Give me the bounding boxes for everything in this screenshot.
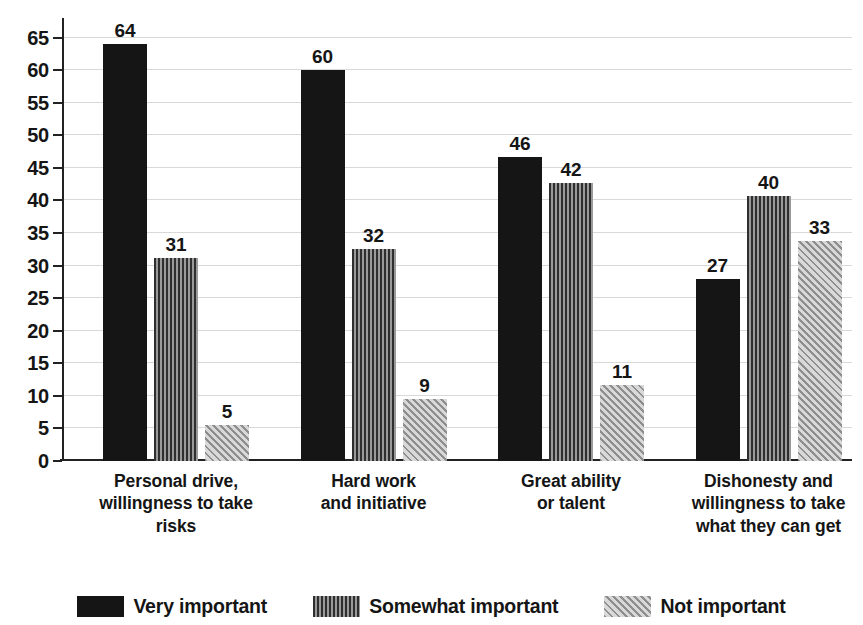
legend-item: Somewhat important: [313, 595, 558, 618]
category-label-line: willingness to take risks: [77, 492, 275, 537]
y-axis-tick-label: 0: [38, 450, 49, 473]
bar-value-label: 40: [758, 173, 779, 192]
bar-value-label: 64: [114, 21, 135, 40]
category-label-line: Personal drive,: [77, 470, 275, 492]
y-axis-tick-label: 10: [27, 384, 49, 407]
bar: 27: [696, 279, 740, 461]
category-label-line: Great ability: [472, 470, 670, 492]
bar-chart-figure: 05101520253035404550556065 6431560329464…: [0, 0, 863, 625]
category-label-line: Dishonesty and: [670, 470, 863, 492]
y-axis-tick: [53, 265, 62, 267]
legend-swatch-icon: [313, 596, 360, 617]
category-label-line: Hard work: [275, 470, 473, 492]
legend-item: Not important: [604, 595, 785, 618]
y-axis-tick-label: 40: [27, 189, 49, 212]
bar: 33: [798, 241, 842, 461]
y-axis-tick: [53, 199, 62, 201]
category-label-line: and initiative: [275, 492, 473, 514]
bar: 11: [600, 385, 644, 461]
y-axis-tick-label: 15: [27, 352, 49, 375]
bar: 32: [352, 249, 396, 461]
y-axis-tick-label: 25: [27, 287, 49, 310]
y-axis-tick-label: 60: [27, 59, 49, 82]
y-axis-tick-label: 20: [27, 319, 49, 342]
y-axis-tick: [53, 362, 62, 364]
y-axis-tick: [53, 102, 62, 104]
legend-item: Very important: [77, 595, 267, 618]
category-label-line: what they can get: [670, 515, 863, 537]
y-axis-tick-label: 5: [38, 417, 49, 440]
bar: 64: [103, 44, 147, 461]
x-axis-category-labels: Personal drive,willingness to take risks…: [62, 470, 852, 562]
y-axis-tick: [53, 427, 62, 429]
bar: 5: [205, 425, 249, 461]
x-axis-category-label: Hard workand initiative: [275, 470, 473, 515]
y-axis-tick-label: 35: [27, 222, 49, 245]
legend-swatch-icon: [77, 596, 124, 617]
bar-value-label: 5: [222, 402, 233, 421]
bar-value-label: 27: [707, 256, 728, 275]
bar: 42: [549, 183, 593, 461]
y-axis-tick: [53, 330, 62, 332]
bar-value-label: 31: [165, 235, 186, 254]
category-label-line: or talent: [472, 492, 670, 514]
plot-area: 05101520253035404550556065 6431560329464…: [62, 18, 852, 461]
bar: 46: [498, 157, 542, 461]
bar: 60: [301, 70, 345, 461]
y-axis-tick-label: 45: [27, 156, 49, 179]
y-axis-tick: [53, 134, 62, 136]
y-axis-tick: [53, 395, 62, 397]
y-axis-tick-label: 55: [27, 91, 49, 114]
x-axis-category-label: Great abilityor talent: [472, 470, 670, 515]
category-label-line: willingness to take: [670, 492, 863, 514]
bar-value-label: 60: [312, 47, 333, 66]
legend-label: Very important: [133, 595, 267, 618]
x-axis-category-label: Dishonesty andwillingness to takewhat th…: [670, 470, 863, 537]
bar-value-label: 32: [363, 226, 384, 245]
bar-value-label: 11: [612, 362, 632, 381]
bars-layer: 6431560329464211274033: [62, 18, 852, 461]
legend-label: Somewhat important: [369, 595, 558, 618]
y-axis-tick: [53, 37, 62, 39]
y-axis-tick: [53, 167, 62, 169]
y-axis-tick: [53, 297, 62, 299]
bar-value-label: 46: [509, 134, 530, 153]
bar-value-label: 42: [560, 160, 581, 179]
chart-legend: Very importantSomewhat importantNot impo…: [0, 588, 863, 625]
y-axis-tick: [53, 460, 62, 462]
y-axis-tick-label: 50: [27, 124, 49, 147]
legend-label: Not important: [660, 595, 785, 618]
y-axis-tick-label: 30: [27, 254, 49, 277]
y-axis-tick: [53, 69, 62, 71]
bar-value-label: 33: [809, 218, 830, 237]
bar: 31: [154, 258, 198, 461]
legend-swatch-icon: [604, 596, 651, 617]
bar: 40: [747, 196, 791, 461]
y-axis-tick-label: 65: [27, 26, 49, 49]
y-axis-tick: [53, 232, 62, 234]
bar: 9: [403, 399, 447, 461]
x-axis-category-label: Personal drive,willingness to take risks: [77, 470, 275, 537]
bar-value-label: 9: [419, 376, 430, 395]
